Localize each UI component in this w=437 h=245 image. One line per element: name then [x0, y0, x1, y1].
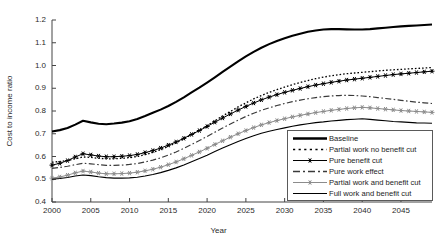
star-marker [367, 106, 372, 110]
star-marker [305, 112, 310, 116]
y-tick-label: 0.8 [22, 106, 46, 115]
star-marker [290, 115, 295, 119]
asterisk-marker [313, 83, 318, 87]
legend-item[interactable]: Full work and benefit cut [288, 188, 432, 199]
asterisk-marker [96, 154, 101, 158]
star-marker [313, 110, 318, 114]
asterisk-marker [329, 80, 334, 84]
y-axis-ticks [52, 20, 56, 202]
asterisk-marker [298, 86, 303, 90]
asterisk-marker [65, 158, 70, 162]
asterisk-marker [360, 76, 365, 80]
legend-item[interactable]: Pure benefit cut [288, 155, 432, 166]
y-tick-label: 0.6 [22, 152, 46, 161]
star-marker [391, 108, 396, 112]
asterisk-marker [243, 104, 248, 108]
star-marker [119, 171, 124, 175]
legend-line-sample-solid-thin-icon [291, 188, 329, 199]
star-marker [81, 169, 86, 173]
star-marker [166, 163, 171, 167]
legend-line-sample-solid-asterisk-icon [291, 155, 329, 166]
asterisk-marker [308, 158, 313, 162]
asterisk-marker [375, 74, 380, 78]
y-tick-label: 0.7 [22, 129, 46, 138]
asterisk-marker [352, 77, 357, 81]
series-line-0 [52, 25, 432, 132]
star-marker [336, 107, 341, 111]
y-tick-label: 0.9 [22, 83, 46, 92]
star-marker [88, 170, 93, 174]
asterisk-marker [336, 79, 341, 83]
y-tick-label: 1.1 [22, 38, 46, 47]
asterisk-marker [236, 108, 241, 112]
star-marker [344, 106, 349, 110]
asterisk-marker [290, 88, 295, 92]
star-marker [251, 125, 256, 129]
star-marker [375, 106, 380, 110]
asterisk-marker [88, 153, 93, 157]
star-marker [383, 107, 388, 111]
asterisk-marker [344, 78, 349, 82]
x-tick-label: 2015 [153, 206, 183, 215]
legend-item-label: Partial work and benefit cut [329, 177, 421, 188]
star-marker [259, 123, 264, 127]
star-marker [174, 160, 179, 164]
asterisk-marker [391, 72, 396, 76]
legend-item[interactable]: Pure work effect [288, 166, 432, 177]
legend-item-label: Baseline [329, 133, 358, 144]
star-marker [104, 172, 109, 176]
star-marker [205, 146, 210, 150]
asterisk-marker [414, 70, 419, 74]
star-marker [243, 128, 248, 132]
asterisk-marker [267, 95, 272, 99]
asterisk-marker [189, 132, 194, 136]
asterisk-marker [259, 98, 264, 102]
star-marker [150, 167, 155, 171]
star-marker [158, 165, 163, 169]
star-marker [298, 113, 303, 117]
y-tick-label: 1.0 [22, 61, 46, 70]
star-marker [112, 172, 117, 176]
chart-figure: Cost to income ratio Year 0.40.50.60.70.… [0, 0, 437, 245]
legend-line-sample-dotted-icon [291, 144, 329, 155]
star-marker [414, 109, 419, 113]
star-marker [181, 157, 186, 161]
y-tick-label: 0.5 [22, 174, 46, 183]
star-marker [189, 153, 194, 157]
star-marker [267, 120, 272, 124]
star-marker [236, 132, 241, 136]
chart-legend: BaselinePartial work no benefit cutPure … [287, 130, 433, 201]
star-marker [212, 142, 217, 146]
y-tick-label: 0.4 [22, 197, 46, 206]
star-marker [127, 171, 132, 175]
asterisk-marker [398, 72, 403, 76]
legend-item-label: Pure benefit cut [329, 155, 382, 166]
x-tick-label: 2045 [386, 206, 416, 215]
asterisk-marker [422, 70, 427, 74]
legend-line-sample-dash-dot-icon [291, 166, 329, 177]
star-marker [73, 171, 78, 175]
star-marker [96, 171, 101, 175]
star-marker [308, 180, 313, 184]
star-marker [406, 109, 411, 113]
star-marker [430, 110, 435, 114]
legend-item[interactable]: Partial work and benefit cut [288, 177, 432, 188]
legend-item-label: Pure work effect [329, 166, 384, 177]
asterisk-marker [430, 69, 435, 73]
legend-line-sample-solid-thick-icon [291, 133, 329, 144]
asterisk-marker [305, 84, 310, 88]
asterisk-marker [367, 75, 372, 79]
star-marker [352, 106, 357, 110]
asterisk-marker [251, 101, 256, 105]
legend-item[interactable]: Partial work no benefit cut [288, 144, 432, 155]
legend-item[interactable]: Baseline [288, 133, 432, 144]
x-tick-label: 2005 [76, 206, 106, 215]
star-marker [228, 135, 233, 139]
star-marker [274, 118, 279, 122]
asterisk-marker [166, 143, 171, 147]
asterisk-marker [274, 92, 279, 96]
star-marker [197, 150, 202, 154]
asterisk-marker [406, 71, 411, 75]
y-tick-label: 1.2 [22, 15, 46, 24]
star-marker [321, 109, 326, 113]
